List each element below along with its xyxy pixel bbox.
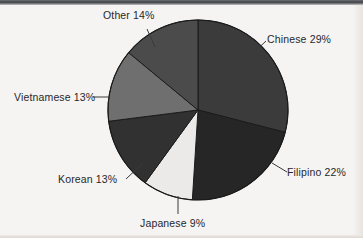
- slice-label-chinese: Chinese 29%: [267, 33, 331, 45]
- pie-chart-figure: Other 14% Chinese 29% Filipino 22% Japan…: [0, 0, 363, 238]
- slice-label-vietnamese: Vietnamese 13%: [14, 91, 95, 103]
- pie-slices: [108, 20, 288, 200]
- slice-label-japanese: Japanese 9%: [140, 217, 205, 229]
- leader-line-filipino: [272, 163, 287, 172]
- slice-label-korean: Korean 13%: [58, 173, 117, 185]
- scan-artifact-bottom-bar: [0, 235, 363, 238]
- slice-label-other: Other 14%: [103, 9, 155, 21]
- scan-artifact-right-edge: [353, 5, 363, 238]
- slice-label-filipino: Filipino 22%: [287, 166, 346, 178]
